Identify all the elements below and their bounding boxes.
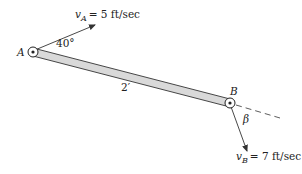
velocity-a-label: vA= 5 ft/sec [75,8,140,23]
point-b-label: B [229,85,238,97]
velocity-a-subscript: A [80,14,87,23]
point-a-label: A [16,46,25,58]
pin-a-icon [28,47,38,57]
velocity-b-label: vB= 7 ft/sec [236,150,301,165]
angle-b-label: β [242,113,249,125]
kinematics-diagram: A B 40° β 2′ vA= 5 ft/sec vB= 7 ft/sec [0,0,302,174]
velocity-b-subscript: B [241,156,248,165]
velocity-a-value: = 5 ft/sec [89,8,140,20]
angle-a-label: 40° [56,37,75,49]
bar-ab [33,48,230,107]
velocity-b-arrow [230,104,247,151]
bar-length-label: 2′ [121,81,131,93]
velocity-b-value: = 7 ft/sec [250,150,301,162]
pin-b-icon [225,98,235,108]
